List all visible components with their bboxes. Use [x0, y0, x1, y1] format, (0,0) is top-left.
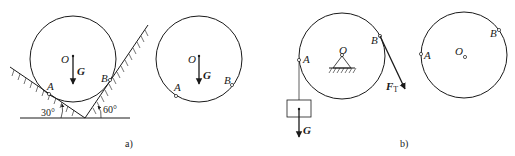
figure-b-diagram-1: O A G B FT [287, 13, 405, 137]
figure-b-caption: b) [400, 138, 408, 150]
point-a-label: A [423, 49, 431, 61]
point-a-label: A [302, 53, 310, 65]
weight-label: G [303, 124, 311, 136]
point-b-label: B [101, 72, 108, 84]
angle-60-label: 60° [103, 104, 117, 115]
point-b [230, 83, 233, 86]
point-a-label: A [173, 81, 181, 93]
figure-canvas: O G A B 30° 60° O G A B a) [0, 0, 515, 156]
figure-a-caption: a) [125, 138, 133, 150]
angle-30-label: 30° [41, 107, 55, 118]
pivot-support [333, 56, 351, 68]
angle-arc-30 [61, 104, 63, 118]
center-label: O [339, 44, 347, 56]
figure-a-diagram-2: O G A B [156, 16, 242, 102]
point-a [297, 58, 300, 61]
weight-label: G [203, 69, 211, 81]
point-b-label: B [224, 74, 231, 86]
figure-b-diagram-2: A B O [419, 12, 507, 98]
point-a-label: A [46, 80, 54, 92]
center-label: O [455, 45, 463, 57]
contact-point-a [47, 92, 50, 95]
point-a [174, 94, 177, 97]
center-label: O [188, 53, 196, 65]
point-a [419, 52, 422, 55]
support-hatching [329, 68, 356, 73]
figure-a-diagram-1: O G A B 30° 60° [10, 16, 148, 118]
point-b-label: B [371, 34, 378, 46]
contact-point-b [108, 78, 111, 81]
tension-label: FT [385, 80, 398, 94]
point-b [497, 28, 500, 31]
point-b-label: B [490, 27, 497, 39]
center-point [463, 55, 466, 58]
free-body-circle [421, 12, 507, 98]
center-label: O [61, 53, 69, 65]
weight-label: G [77, 65, 85, 77]
